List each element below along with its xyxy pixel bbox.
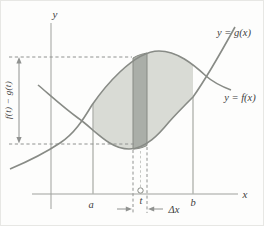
- figure-container: f(t) − g(t) Δx y x a b t y = g(x) y = f(…: [0, 0, 264, 226]
- figure-canvas: f(t) − g(t) Δx y x a b t y = g(x) y = f(…: [1, 1, 264, 226]
- height-arrowhead-up-icon: [16, 57, 21, 64]
- representative-strip: [133, 53, 147, 149]
- dx-arrowhead-left-icon: [148, 207, 154, 212]
- b-label: b: [190, 197, 195, 208]
- g-curve-label: y = g(x): [216, 27, 251, 39]
- t-point-marker: [138, 188, 143, 193]
- height-arrowhead-down-icon: [16, 137, 21, 144]
- f-curve-label: y = f(x): [223, 92, 256, 104]
- a-label: a: [88, 199, 93, 210]
- t-label: t: [140, 195, 144, 206]
- height-label: f(t) − g(t): [3, 81, 13, 119]
- dx-label: Δx: [168, 204, 180, 215]
- dx-arrowhead-right-icon: [126, 207, 132, 212]
- x-axis-label: x: [242, 188, 248, 200]
- y-axis-label: y: [52, 8, 58, 20]
